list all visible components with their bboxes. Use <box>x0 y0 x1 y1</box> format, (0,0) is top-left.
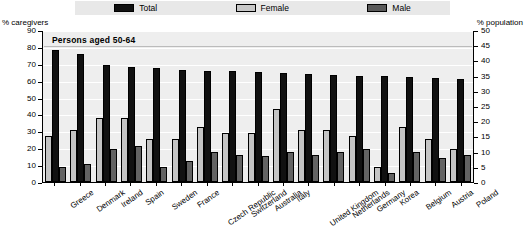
bar-total <box>128 67 135 182</box>
bar-group <box>271 32 296 182</box>
bar-female <box>70 130 77 182</box>
bar-total <box>381 76 388 182</box>
bar-group <box>94 32 119 182</box>
bar-male <box>84 164 91 182</box>
bar-male <box>262 156 269 182</box>
legend-item-female: Female <box>236 4 289 13</box>
x-axis-label: Austria <box>449 188 475 210</box>
bar-female <box>450 149 457 182</box>
x-axis-label: Spain <box>144 188 166 207</box>
bar-total <box>406 77 413 182</box>
bar-group <box>245 32 270 182</box>
bar-female <box>172 139 179 182</box>
right-tick-label: 50 <box>481 27 505 35</box>
x-tick-mark <box>410 183 411 186</box>
bar-total <box>229 71 236 182</box>
right-tick-label: 25 <box>481 103 505 111</box>
right-tick-mark <box>474 77 478 78</box>
bar-female <box>45 136 52 182</box>
right-tick-mark <box>474 122 478 123</box>
bar-male <box>135 146 142 182</box>
bar-group <box>372 32 397 182</box>
right-tick-mark <box>474 153 478 154</box>
bar-total <box>52 50 59 182</box>
right-tick-mark <box>474 168 478 169</box>
left-tick-label: 60 <box>12 78 36 86</box>
bar-male <box>110 149 117 182</box>
bar-male <box>439 158 446 182</box>
right-tick-label: 0 <box>481 179 505 187</box>
bar-female <box>273 109 280 182</box>
chart-legend: Total Female Male <box>75 1 450 15</box>
bar-female <box>222 133 229 182</box>
bar-group <box>43 32 68 182</box>
bar-male <box>464 155 471 182</box>
left-tick-label: 20 <box>12 145 36 153</box>
left-tick-label: 80 <box>12 44 36 52</box>
bar-total <box>103 65 110 182</box>
right-tick-label: 45 <box>481 42 505 50</box>
right-tick-mark <box>474 31 478 32</box>
bar-group <box>422 32 447 182</box>
bar-total <box>153 68 160 182</box>
bar-total <box>255 72 262 182</box>
x-axis-label: Poland <box>475 188 501 210</box>
left-tick-label: 50 <box>12 95 36 103</box>
bar-female <box>374 167 381 182</box>
x-axis-label: Belgium <box>425 188 454 212</box>
bar-female <box>323 130 330 182</box>
plot-area: Persons aged 50-64 <box>42 31 474 183</box>
right-tick-mark <box>474 92 478 93</box>
x-axis-labels: GreeceDenmarkIrelandSpainSwedenFranceCze… <box>42 184 474 244</box>
left-tick-label: 70 <box>12 61 36 69</box>
legend-swatch-female <box>236 4 256 12</box>
bar-total <box>179 70 186 182</box>
right-tick-label: 20 <box>481 118 505 126</box>
left-tick-label: 10 <box>12 162 36 170</box>
bar-female <box>96 118 103 182</box>
bar-group <box>347 32 372 182</box>
bar-group <box>220 32 245 182</box>
bar-female <box>197 127 204 182</box>
bar-female <box>248 133 255 182</box>
bar-total <box>280 73 287 182</box>
bar-groups <box>43 32 473 182</box>
right-tick-label: 40 <box>481 57 505 65</box>
bar-male <box>413 152 420 182</box>
bar-group <box>448 32 473 182</box>
legend-label-male: Male <box>392 4 410 13</box>
right-tick-mark <box>474 61 478 62</box>
x-tick-mark <box>283 183 284 186</box>
x-tick-mark <box>130 183 131 186</box>
bar-total <box>457 79 464 182</box>
legend-item-male: Male <box>367 4 410 13</box>
bar-male <box>186 161 193 182</box>
right-tick-label: 10 <box>481 149 505 157</box>
bar-group <box>195 32 220 182</box>
right-tick-mark <box>474 183 478 184</box>
bar-group <box>169 32 194 182</box>
bar-group <box>119 32 144 182</box>
bar-male <box>160 167 167 182</box>
bar-male <box>388 173 395 182</box>
bar-female <box>146 139 153 182</box>
bar-male <box>337 152 344 182</box>
bar-female <box>399 127 406 182</box>
x-tick-mark <box>461 183 462 186</box>
right-tick-mark <box>474 107 478 108</box>
x-axis-label: Sweden <box>171 188 200 212</box>
bar-total <box>330 75 337 182</box>
bar-group <box>144 32 169 182</box>
left-tick-label: 30 <box>12 128 36 136</box>
x-tick-mark <box>105 183 106 186</box>
x-tick-mark <box>385 183 386 186</box>
right-tick-label: 35 <box>481 73 505 81</box>
x-axis-label: France <box>195 188 221 210</box>
bar-male <box>236 155 243 182</box>
bar-total <box>432 78 439 182</box>
bar-total <box>356 76 363 182</box>
right-tick-label: 30 <box>481 88 505 96</box>
right-tick-label: 5 <box>481 164 505 172</box>
bar-group <box>296 32 321 182</box>
bar-group <box>68 32 93 182</box>
